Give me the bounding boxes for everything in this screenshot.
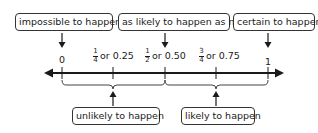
label-likely: likely to happen: [181, 107, 255, 125]
down-arrow-icon: [265, 42, 272, 48]
up-arrow-icon: [110, 91, 117, 97]
fraction: 14: [93, 48, 98, 64]
tick-label-quarter: 14or 0.25: [93, 48, 134, 64]
up-arrow-icon: [213, 91, 220, 97]
down-arrow-icon: [59, 42, 66, 48]
brace-likely: [165, 80, 268, 89]
fraction: 12: [145, 48, 150, 64]
label-unlikely: unlikely to happen: [72, 107, 160, 125]
tick-label-three-quarters: 34or 0.75: [199, 48, 240, 64]
brace-unlikely: [62, 80, 165, 89]
tick-label-0: 0: [59, 54, 65, 65]
fraction: 34: [199, 48, 204, 64]
label-as-likely-as-not: as likely to happen as not: [118, 13, 230, 31]
label-certain: certain to happen: [233, 13, 315, 31]
tick-label-1: 1: [265, 56, 271, 67]
label-impossible: impossible to happen: [15, 13, 113, 31]
tick-label-half: 12or 0.50: [145, 48, 186, 64]
right-arrowhead-icon: [275, 69, 284, 78]
left-arrowhead-icon: [44, 69, 53, 78]
